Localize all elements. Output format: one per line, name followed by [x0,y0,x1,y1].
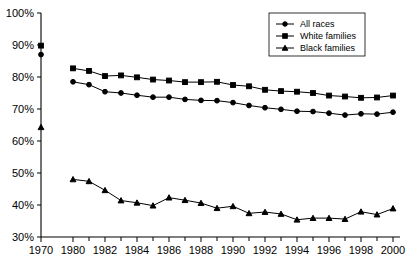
data-point-triangle [390,206,396,211]
data-point-circle [359,111,364,116]
data-point-square [375,95,380,100]
data-point-square [263,87,268,92]
legend-item-label: White families [300,31,357,41]
x-axis-tick-label: 1982 [93,244,117,256]
data-point-circle [167,95,172,100]
x-axis-tick-label: 1996 [317,244,341,256]
data-point-square [247,84,252,89]
x-axis-tick-label: 1994 [285,244,309,256]
data-point-square [183,80,188,85]
data-point-square [359,95,364,100]
data-point-triangle [70,177,76,182]
chart-legend: All racesWhite familiesBlack families [269,13,365,56]
data-point-square [199,80,204,85]
x-axis-tick-label: 1998 [349,244,373,256]
data-point-square [295,89,300,94]
chart-container: 100%90%80%70%60%50%40%30% 19701980198219… [0,0,416,263]
x-axis-tick-label: 1980 [61,244,85,256]
legend-item-label: All races [300,19,335,29]
data-point-circle [103,89,108,94]
data-point-circle [279,107,284,112]
data-point-square [283,34,288,39]
data-point-triangle [38,124,44,129]
x-axis-tick-label: 1988 [189,244,213,256]
x-axis: 1970198019821984198619881990199219941996… [29,237,405,256]
x-axis-tick-label: 1986 [157,244,181,256]
series-layer [38,43,396,222]
series-black-families [38,124,396,222]
data-point-square [151,77,156,82]
data-point-square [231,83,236,88]
y-axis-tick-label: 80% [12,71,34,83]
data-point-square [119,73,124,78]
data-point-circle [263,105,268,110]
data-point-circle [343,113,348,118]
data-point-square [215,79,220,84]
x-axis-tick-label: 1970 [29,244,53,256]
data-point-square [103,74,108,79]
y-axis-tick-label: 70% [12,103,34,115]
data-point-circle [87,82,92,87]
data-point-square [391,93,396,98]
data-point-square [279,89,284,94]
data-point-triangle [102,187,108,192]
y-axis-tick-label: 60% [12,135,34,147]
y-axis-tick-label: 30% [12,231,34,243]
data-point-square [87,69,92,74]
data-point-circle [39,52,44,57]
data-point-square [71,66,76,71]
data-point-circle [119,91,124,96]
data-point-square [167,78,172,83]
data-point-circle [391,110,396,115]
data-point-circle [135,93,140,98]
legend-item-label: Black families [300,43,356,53]
data-point-square [311,91,316,96]
data-point-circle [247,103,252,108]
data-point-circle [295,109,300,114]
data-point-circle [311,109,316,114]
data-point-triangle [166,195,172,200]
data-point-circle [375,112,380,117]
line-chart: 100%90%80%70%60%50%40%30% 19701980198219… [0,0,416,263]
data-point-circle [71,79,76,84]
series-all-races [39,52,396,117]
y-axis: 100%90%80%70%60%50%40%30% [6,7,41,243]
data-point-circle [199,98,204,103]
data-point-square [343,94,348,99]
data-point-circle [231,100,236,105]
data-point-square [39,43,44,48]
y-axis-tick-label: 90% [12,39,34,51]
data-point-circle [283,22,288,27]
x-axis-tick-label: 1992 [253,244,277,256]
data-point-triangle [358,209,364,214]
data-point-square [327,93,332,98]
x-axis-tick-label: 2000 [381,244,405,256]
data-point-circle [151,95,156,100]
data-point-circle [183,97,188,102]
data-point-circle [215,98,220,103]
data-point-triangle [118,198,124,203]
y-axis-tick-label: 40% [12,199,34,211]
data-point-square [135,75,140,80]
data-point-circle [327,111,332,116]
x-axis-tick-label: 1984 [125,244,149,256]
data-point-triangle [230,203,236,208]
y-axis-tick-label: 50% [12,167,34,179]
x-axis-tick-label: 1990 [221,244,245,256]
y-axis-tick-label: 100% [6,7,34,19]
